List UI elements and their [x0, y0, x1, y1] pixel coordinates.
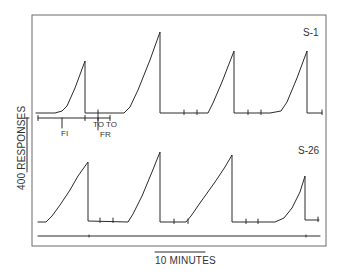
annotation-to: TO — [106, 120, 117, 129]
plot-frame — [32, 15, 326, 246]
trace-s-1 — [36, 32, 322, 113]
y-scale-label: 400 RESPONSES — [16, 106, 27, 190]
series-label-s26: S-26 — [298, 145, 320, 156]
trace-s-26 — [38, 152, 319, 222]
schedule-annotations: FITOTOFR — [61, 120, 117, 139]
annotation-to: TO — [93, 120, 104, 129]
trace-labels: S-1 S-26 — [298, 27, 320, 156]
y-scale-bar: 400 RESPONSES — [16, 106, 29, 190]
series-label-s1: S-1 — [303, 27, 319, 38]
annotation-fr: FR — [100, 130, 111, 139]
cumulative-record-figure: S-1 S-26 FITOTOFR 400 RESPONSES 10 MINUT… — [0, 0, 342, 278]
x-scale-label: 10 MINUTES — [155, 255, 216, 266]
annotation-fi: FI — [61, 129, 68, 138]
cumulative-traces — [36, 32, 322, 224]
x-scale-bar: 10 MINUTES — [155, 252, 216, 266]
